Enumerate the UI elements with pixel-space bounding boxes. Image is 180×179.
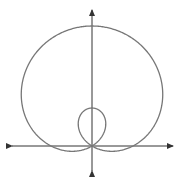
limacon-diagram — [0, 0, 180, 179]
